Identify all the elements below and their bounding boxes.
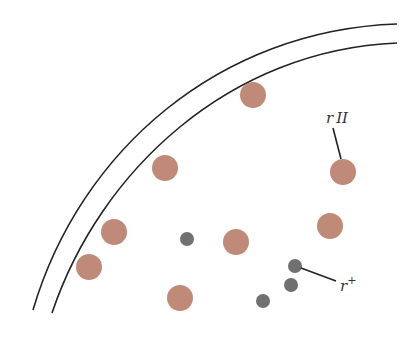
r-plus-particle xyxy=(284,278,298,292)
rII-particle xyxy=(167,285,193,311)
phage-particle-diagram: rII r+ xyxy=(0,0,408,343)
rII-particle xyxy=(223,229,249,255)
r-plus-particle xyxy=(180,232,194,246)
r-plus-label-suffix: + xyxy=(347,274,356,287)
r-plus-particle xyxy=(256,294,270,308)
rII-particle xyxy=(101,219,127,245)
rII-label-suffix: II xyxy=(335,109,349,127)
rII-particles xyxy=(76,82,356,311)
rII-label: rII xyxy=(326,109,349,127)
rII-leader-line xyxy=(333,128,341,159)
rII-particle xyxy=(152,155,178,181)
rII-particle xyxy=(317,213,343,239)
rII-label-base: r xyxy=(326,109,334,127)
r-plus-label: r+ xyxy=(340,274,356,295)
rII-particle xyxy=(76,254,102,280)
rII-particle xyxy=(330,159,356,185)
rII-particle xyxy=(240,82,266,108)
r-plus-particle xyxy=(288,259,302,273)
r-plus-leader-line xyxy=(301,268,336,281)
